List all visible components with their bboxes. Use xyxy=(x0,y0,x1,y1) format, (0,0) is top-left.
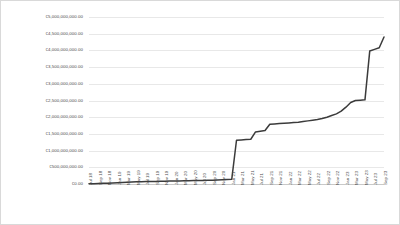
x-tick-label: Nov 22 xyxy=(336,171,340,185)
x-tick: Sep 23 xyxy=(384,185,398,189)
y-tick-label: €1,000,000,000.00 xyxy=(46,148,83,152)
y-axis: €0.00€500,000,000.00€1,000,000,000.00€1,… xyxy=(1,1,87,225)
x-tick-label: Mar 21 xyxy=(241,171,245,185)
x-tick-label: May 23 xyxy=(365,170,369,185)
y-tick-label: €3,500,000,000.00 xyxy=(46,65,83,69)
x-tick-label: Nov 21 xyxy=(279,171,283,185)
x-tick-label: Jan 22 xyxy=(289,172,293,185)
x-tick-label: Jan 19 xyxy=(118,172,122,185)
x-tick-label: Jul 18 xyxy=(89,173,93,185)
x-tick-label: Nov 18 xyxy=(108,171,112,185)
x-tick-label: Jul 19 xyxy=(146,173,150,185)
y-tick-label: €4,000,000,000.00 xyxy=(46,48,83,52)
x-tick-label: May 20 xyxy=(194,170,198,185)
chart-frame: €0.00€500,000,000.00€1,000,000,000.00€1,… xyxy=(0,0,400,225)
x-tick-label: May 19 xyxy=(137,170,141,185)
x-tick-label: Sep 20 xyxy=(213,171,217,185)
x-tick-label: Sep 18 xyxy=(99,171,103,185)
x-tick-label: Jul 23 xyxy=(374,173,378,185)
y-tick-label: €3,000,000,000.00 xyxy=(46,82,83,86)
x-tick-label: Mar 22 xyxy=(298,171,302,185)
y-tick-label: €0.00 xyxy=(72,182,83,186)
x-tick-label: Nov 20 xyxy=(222,171,226,185)
x-tick-label: Sep 21 xyxy=(270,171,274,185)
y-tick-label: €1,500,000,000.00 xyxy=(46,132,83,136)
x-tick-label: Jan 21 xyxy=(232,172,236,185)
x-tick-label: Sep 22 xyxy=(327,171,331,185)
x-tick-label: Sep 19 xyxy=(156,171,160,185)
x-tick-label: Jul 21 xyxy=(260,173,264,185)
x-tick-label: Mar 20 xyxy=(184,171,188,185)
x-tick-label: Mar 19 xyxy=(127,171,131,185)
series-line xyxy=(89,37,384,184)
x-tick-label: May 22 xyxy=(308,170,312,185)
x-tick-label: Sep 23 xyxy=(384,171,388,185)
y-tick-label: €4,500,000,000.00 xyxy=(46,31,83,35)
x-tick-label: Jan 20 xyxy=(175,172,179,185)
x-tick-label: Jan 23 xyxy=(346,172,350,185)
x-tick-label: Mar 23 xyxy=(355,171,359,185)
x-axis: Jul 18Sep 18Nov 18Jan 19Mar 19May 19Jul … xyxy=(89,185,384,225)
plot-area xyxy=(89,17,384,184)
y-tick-label: €2,500,000,000.00 xyxy=(46,98,83,102)
y-tick-label: €5,000,000,000.00 xyxy=(46,15,83,19)
line-series xyxy=(89,17,384,184)
x-tick-label: Jul 22 xyxy=(317,173,321,185)
x-tick-label: Jul 20 xyxy=(203,173,207,185)
x-tick-label: Nov 19 xyxy=(165,171,169,185)
y-tick-label: €500,000,000.00 xyxy=(49,165,83,169)
y-tick-label: €2,000,000,000.00 xyxy=(46,115,83,119)
x-tick-label: May 21 xyxy=(251,170,255,185)
